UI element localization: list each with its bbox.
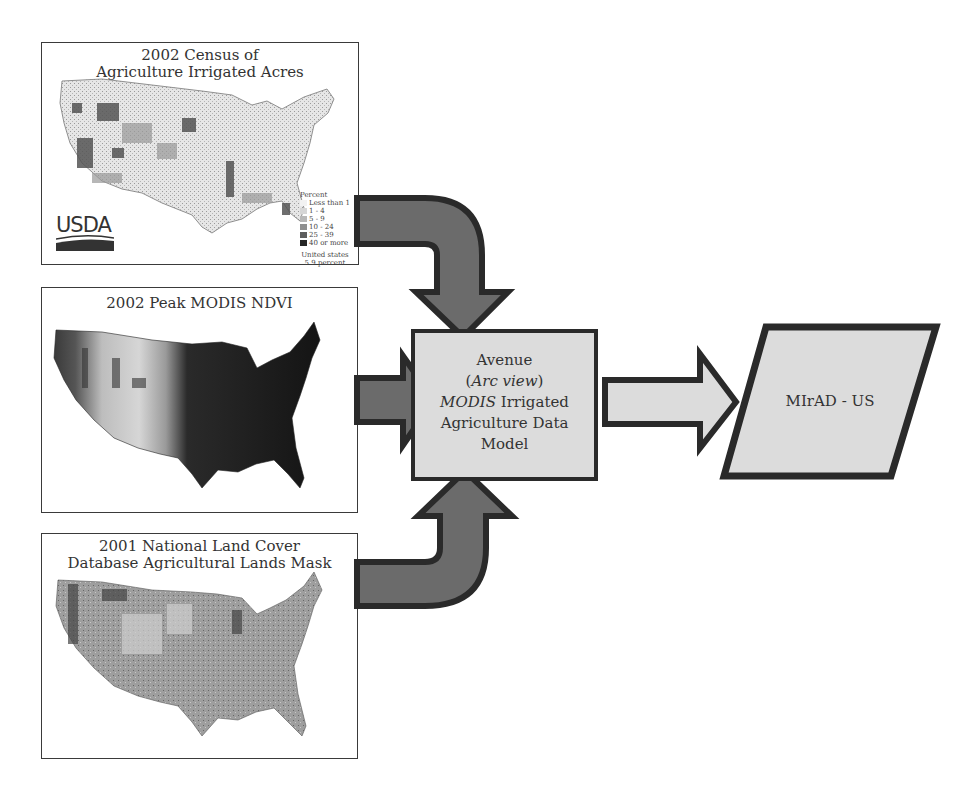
model-line-arcview: (Arc view)	[413, 371, 596, 392]
modis-italic: MODIS	[440, 393, 496, 411]
model-line-modis: MODIS Irrigated	[413, 392, 596, 413]
model-box-label: Avenue (Arc view) MODIS Irrigated Agricu…	[413, 350, 596, 455]
output-label-text: MIrAD - US	[786, 392, 875, 410]
bottom-curved-arrow-icon	[357, 471, 512, 606]
paren-close: )	[538, 372, 544, 390]
output-label: MIrAD - US	[740, 391, 920, 412]
irrigated-text: Irrigated	[496, 393, 569, 411]
model-line-avenue: Avenue	[413, 350, 596, 371]
arcview-italic: Arc view	[471, 372, 537, 390]
model-line-model: Model	[413, 434, 596, 455]
output-arrow-icon	[605, 354, 736, 448]
top-curved-arrow-icon	[357, 198, 508, 337]
model-line-agriculture: Agriculture Data	[413, 413, 596, 434]
